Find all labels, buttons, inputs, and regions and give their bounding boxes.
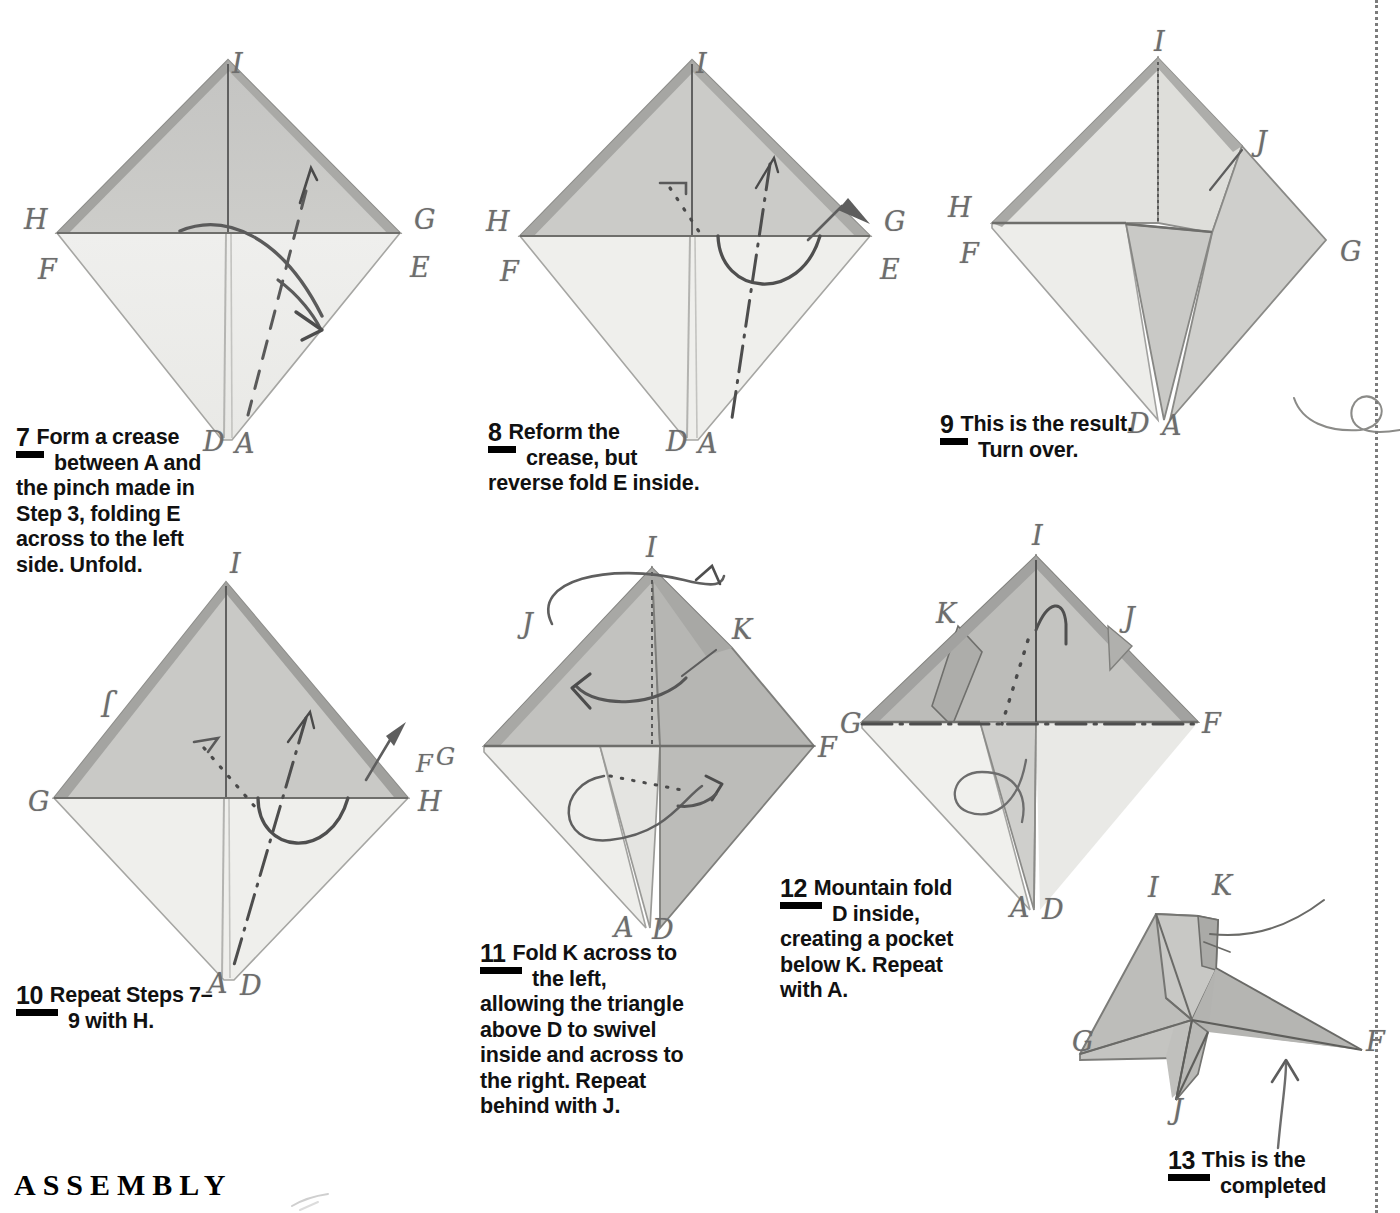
diagram-10-label-G-right: G (436, 745, 455, 769)
step-12-line-2: D inside, (832, 902, 920, 928)
step-7-caption: 7 Form a crease between A and the pinch … (16, 425, 256, 578)
diagram-13-label-J: J (1172, 1096, 1183, 1123)
diagram-12-label-D: D (1042, 896, 1064, 923)
step-7-line-3: the pinch made in (16, 476, 195, 500)
arrow-up-pointing-at-model (1278, 1064, 1286, 1148)
step-10-line-2: 9 with H. (68, 1009, 154, 1035)
diagram-13-label-I: I (1148, 874, 1159, 901)
step-11-line-6: the right. Repeat (480, 1069, 646, 1093)
step-7-text: Form a crease between A and the pinch ma… (16, 425, 256, 578)
diagram-7-label-I: I (232, 50, 243, 77)
step-8-number: 8 (488, 420, 501, 445)
diagram-10-svg (18, 540, 458, 990)
step-10-number: 10 (16, 983, 43, 1008)
step-13-line-2: completed (1220, 1174, 1326, 1200)
diagram-step-7: I H F G E D A (10, 28, 450, 448)
diagram-9-label-J: J (1256, 128, 1267, 155)
step-9-text: This is the result. Turn over. (940, 412, 1220, 463)
step-8-line-2: crease, but (526, 446, 637, 472)
diagram-7-label-E: E (410, 254, 430, 281)
diagram-step-13: I K G F J (1080, 868, 1400, 1158)
diagram-step-8: I H F G E D A (470, 28, 910, 448)
step-11-line-5: inside and across to (480, 1043, 683, 1067)
step-9-line-1: This is the result. (960, 412, 1132, 436)
diagram-8-label-F: F (500, 258, 519, 285)
step-8-text: Reform the crease, but reverse fold E in… (488, 420, 738, 497)
step-11-line-7: behind with J. (480, 1094, 620, 1118)
diagram-7-label-F: F (38, 256, 57, 283)
diagram-12-label-A: A (1010, 894, 1030, 921)
assembly-heading: ASSEMBLY (14, 1168, 232, 1202)
step-8-line-1: Reform the (508, 420, 619, 444)
step-7-line-1: Form a crease (36, 425, 179, 449)
diagram-12-label-I: I (1032, 522, 1043, 549)
diagram-8-label-H: H (486, 208, 510, 235)
diagram-12-label-F: F (1202, 710, 1221, 737)
diagram-12-svg (840, 520, 1240, 920)
pencil-loop-squiggle (1268, 368, 1400, 480)
step-9-line-2: Turn over. (978, 438, 1078, 464)
step-7-line-5: across to the left (16, 527, 184, 551)
step-7-line-2: between A and (54, 451, 201, 477)
step-13-caption: 13 This is the completed (1168, 1148, 1388, 1199)
step-8-caption: 8 Reform the crease, but reverse fold E … (488, 420, 738, 497)
diagram-13-label-K: K (1212, 872, 1232, 899)
diagram-9-label-H: H (948, 194, 972, 221)
diagram-9-label-F: F (960, 240, 979, 267)
step-11-caption: 11 Fold K across to the left, allowing t… (480, 941, 730, 1120)
diagram-11-label-D: D (652, 916, 674, 943)
step-9-number: 9 (940, 412, 953, 437)
step-12-line-3: creating a pocket (780, 927, 953, 951)
diagram-10-label-G-left: G (28, 788, 50, 815)
trim-dotted-line (1375, 0, 1378, 1213)
diagram-9-label-I: I (1154, 28, 1165, 55)
diagram-10-label-J: J (102, 692, 113, 719)
diagram-12-label-K: K (936, 600, 956, 627)
step-11-line-3: allowing the triangle (480, 992, 684, 1016)
step-7-number: 7 (16, 425, 29, 450)
diagram-11-label-F: F (818, 734, 837, 761)
diagram-11-label-K: K (732, 616, 752, 643)
step-11-line-2: the left, (532, 967, 607, 993)
step-8-line-3: reverse fold E inside. (488, 471, 699, 495)
diagram-8-label-I: I (696, 50, 707, 77)
pointer-line-to-pocket (1210, 900, 1324, 935)
diagram-13-label-G: G (1072, 1028, 1094, 1055)
diagram-8-label-E: E (880, 256, 900, 283)
diagram-8-svg (470, 28, 910, 448)
step-12-number: 12 (780, 876, 807, 901)
step-13-number: 13 (1168, 1148, 1195, 1173)
diagram-10-label-H: H (418, 788, 442, 815)
step-10-caption: 10 Repeat Steps 7– 9 with H. (16, 983, 276, 1034)
diagram-12-label-J: J (1124, 604, 1135, 631)
step-12-line-1: Mountain fold (814, 876, 952, 900)
diagram-step-12: I K J G F A D (840, 520, 1240, 920)
diagram-step-10: J I G F G H A D (18, 540, 458, 990)
faint-pencil-mark (288, 1186, 348, 1213)
step-12-caption: 12 Mountain fold D inside, creating a po… (780, 876, 1000, 1004)
step-12-text: Mountain fold D inside, creating a pocke… (780, 876, 1000, 1004)
diagram-9-label-G: G (1340, 238, 1362, 265)
diagram-7-label-H: H (24, 206, 48, 233)
diagram-7-label-G: G (414, 206, 436, 233)
step-13-line-1: This is the (1202, 1148, 1306, 1172)
step-11-number: 11 (480, 941, 505, 966)
step-11-line-4: above D to swivel (480, 1018, 656, 1042)
diagram-13-svg (1080, 868, 1400, 1158)
diagram-11-label-A: A (614, 914, 634, 941)
step-10-line-1: Repeat Steps 7– (50, 983, 213, 1007)
step-7-line-4: Step 3, folding E (16, 502, 180, 526)
diagram-8-label-G: G (884, 208, 906, 235)
step-7-line-6: side. Unfold. (16, 553, 143, 577)
diagram-10-label-F: F (416, 752, 433, 776)
diagram-12-label-G: G (840, 710, 862, 737)
diagram-7-svg (10, 28, 450, 448)
step-12-line-4: below K. Repeat (780, 953, 943, 977)
diagram-11-label-I: I (646, 534, 657, 561)
step-9-caption: 9 This is the result. Turn over. (940, 412, 1220, 463)
diagram-11-label-J: J (522, 610, 533, 637)
step-12-line-5: with A. (780, 978, 848, 1002)
step-11-line-1: Fold K across to (512, 941, 677, 965)
